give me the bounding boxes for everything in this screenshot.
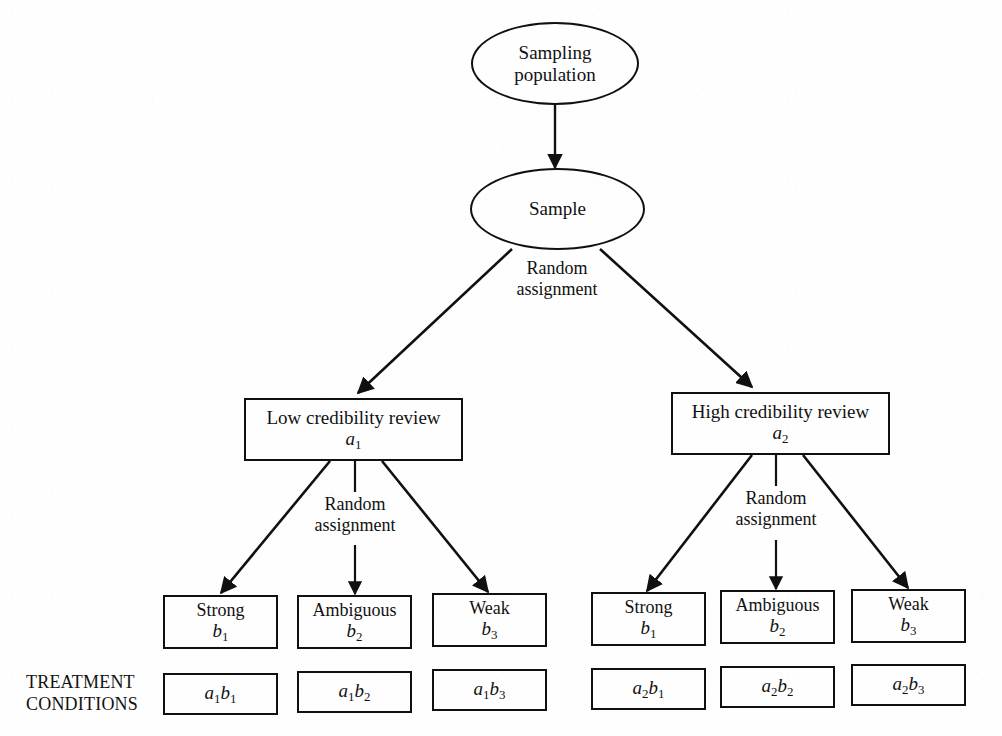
b1-left-label: Strong	[196, 600, 244, 620]
label-random-assignment-left: Random assignment	[297, 494, 413, 535]
label-random-assignment-right: Random assignment	[718, 488, 834, 529]
node-sample[interactable]: Sample	[470, 168, 645, 250]
b1-left-code: b1	[213, 620, 229, 644]
node-treatment-a1b2[interactable]: a1b2	[297, 671, 412, 713]
label-random-assignment-top: Random assignment	[499, 258, 615, 299]
b3-left-code: b3	[482, 618, 498, 642]
node-sampling-population[interactable]: Sampling population	[471, 22, 639, 105]
random-assignment-right-line1: Random	[718, 488, 834, 509]
low-credibility-code: a1	[346, 428, 362, 452]
node-treatment-a2b3[interactable]: a2b3	[851, 664, 966, 706]
node-b2-left[interactable]: Ambiguous b2	[297, 595, 412, 649]
random-assignment-top-line2: assignment	[499, 279, 615, 300]
treatment-a2b3-code: a2b3	[893, 673, 925, 697]
b2-left-label: Ambiguous	[312, 600, 396, 620]
node-b3-left[interactable]: Weak b3	[432, 593, 547, 647]
edge-sample-to-low-credibility	[358, 249, 512, 393]
node-b3-right[interactable]: Weak b3	[851, 589, 966, 643]
b2-left-code: b2	[347, 620, 363, 644]
edge-sample-to-high-credibility	[600, 249, 752, 387]
b2-right-label: Ambiguous	[735, 595, 819, 615]
treatment-a1b2-code: a1b2	[339, 680, 371, 704]
b1-right-label: Strong	[624, 597, 672, 617]
b3-left-label: Weak	[469, 598, 510, 618]
b3-right-code: b3	[901, 614, 917, 638]
high-credibility-code: a2	[773, 422, 789, 446]
random-assignment-left-line2: assignment	[297, 515, 413, 536]
sample-label: Sample	[529, 198, 586, 219]
low-credibility-label: Low credibility review	[266, 407, 440, 428]
treatment-conditions-caption: TREATMENT CONDITIONS	[26, 672, 138, 715]
b3-right-label: Weak	[888, 594, 929, 614]
treatment-a1b3-code: a1b3	[474, 678, 506, 702]
random-assignment-right-line2: assignment	[718, 509, 834, 530]
node-b1-left[interactable]: Strong b1	[163, 595, 278, 649]
high-credibility-label: High credibility review	[692, 401, 869, 422]
node-b1-right[interactable]: Strong b1	[591, 592, 706, 646]
sampling-population-line2: population	[514, 64, 595, 85]
treatment-conditions-line2: CONDITIONS	[26, 694, 138, 716]
treatment-a2b1-code: a2b1	[633, 677, 665, 701]
b2-right-code: b2	[770, 615, 786, 639]
treatment-a2b2-code: a2b2	[762, 675, 794, 699]
treatment-conditions-line1: TREATMENT	[26, 672, 138, 694]
node-low-credibility-review[interactable]: Low credibility review a1	[244, 398, 463, 461]
node-treatment-a2b1[interactable]: a2b1	[591, 668, 706, 710]
node-treatment-a1b1[interactable]: a1b1	[163, 673, 278, 715]
node-high-credibility-review[interactable]: High credibility review a2	[671, 392, 890, 455]
diagram-canvas: Sampling population Sample Random assign…	[0, 0, 1002, 736]
random-assignment-top-line1: Random	[499, 258, 615, 279]
node-treatment-a1b3[interactable]: a1b3	[432, 669, 547, 711]
node-b2-right[interactable]: Ambiguous b2	[720, 590, 835, 644]
random-assignment-left-line1: Random	[297, 494, 413, 515]
node-treatment-a2b2[interactable]: a2b2	[720, 666, 835, 708]
treatment-a1b1-code: a1b1	[205, 682, 237, 706]
b1-right-code: b1	[641, 617, 657, 641]
sampling-population-line1: Sampling	[519, 42, 592, 63]
